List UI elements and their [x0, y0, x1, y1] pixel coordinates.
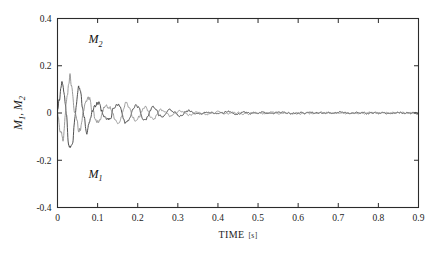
x-axis-label: TIME[s] [218, 229, 257, 240]
figure-root: 00.10.20.30.40.50.60.70.80.9-0.4-0.200.2… [0, 0, 433, 253]
x-tick-label: 0.4 [212, 213, 224, 223]
x-tick-label: 0.7 [332, 213, 344, 223]
chart-canvas: 00.10.20.30.40.50.60.70.80.9-0.4-0.200.2… [0, 0, 433, 253]
x-tick-label: 0.5 [252, 213, 264, 223]
x-tick-label: 0 [55, 213, 60, 223]
x-tick-label: 0.2 [132, 213, 144, 223]
y-tick-label: 0.4 [40, 14, 52, 24]
x-tick-label: 0.1 [92, 213, 104, 223]
x-tick-label: 0.8 [372, 213, 384, 223]
y-tick-label: -0.2 [36, 156, 51, 166]
x-tick-label: 0.9 [413, 213, 425, 223]
y-tick-label: 0 [47, 108, 52, 118]
y-tick-label: -0.4 [36, 203, 51, 213]
x-tick-label: 0.6 [292, 213, 304, 223]
x-tick-label: 0.3 [172, 213, 184, 223]
y-tick-label: 0.2 [40, 61, 52, 71]
